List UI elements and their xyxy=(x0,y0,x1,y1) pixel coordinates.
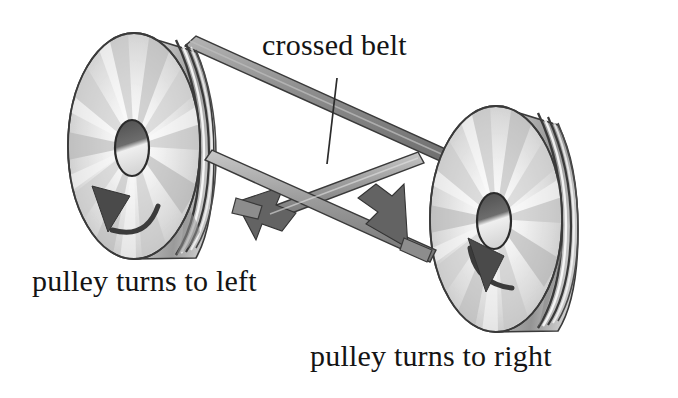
left-pulley-hub xyxy=(115,120,149,176)
belt-lower-strand xyxy=(205,150,436,262)
left-pulley-label: pulley turns to left xyxy=(32,266,257,296)
crossed-belt-label: crossed belt xyxy=(262,30,407,60)
crossed-belt-leader-line xyxy=(327,78,337,164)
left-pulley xyxy=(68,31,216,259)
right-pulley xyxy=(430,104,578,332)
right-pulley-hub xyxy=(477,193,511,249)
right-pulley-label: pulley turns to right xyxy=(310,341,552,371)
pulley-diagram: crossed belt pulley turns to left pulley… xyxy=(0,0,678,398)
